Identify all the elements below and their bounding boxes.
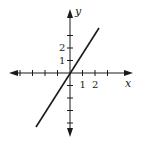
x-axis-label: x	[125, 77, 132, 90]
y-axis-top-arrow-icon	[67, 9, 73, 18]
y-tick-label-2: 2	[59, 42, 65, 53]
x-axis-left-arrow-icon	[9, 70, 18, 76]
coordinate-graph: 1 2 1 2 x y	[0, 0, 141, 142]
x-axis-right-arrow-icon	[124, 70, 133, 76]
y-axis-label: y	[74, 5, 82, 18]
y-axis-bottom-arrow-icon	[67, 128, 73, 137]
graphed-line	[36, 28, 99, 127]
x-tick-label-2: 2	[92, 79, 98, 90]
y-tick-label-1: 1	[59, 55, 65, 66]
x-tick-label-1: 1	[80, 79, 86, 90]
